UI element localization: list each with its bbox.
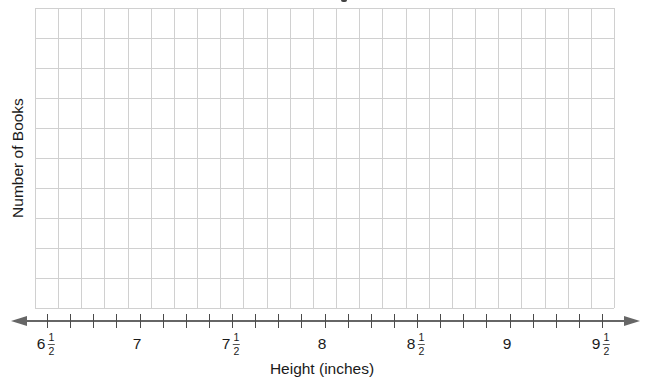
fraction-denominator: 2 [418,345,424,357]
tick-label-whole: 6 [37,336,46,352]
fraction-denominator: 2 [233,345,239,357]
tick-label-whole: 9 [592,336,601,352]
tick-label-whole: 9 [503,336,512,352]
x-tick-label: 7 [133,333,142,355]
fraction-denominator: 2 [48,345,54,357]
fraction-numerator: 1 [232,332,240,345]
tick-label-whole: 8 [407,336,416,352]
plot-grid [35,8,615,309]
x-tick-label: 912 [592,333,610,355]
tick-label-fraction: 12 [602,332,610,356]
fraction-numerator: 1 [602,332,610,345]
tick-label-fraction: 12 [232,332,240,356]
left-arrow-icon [11,316,27,326]
y-axis-label: Number of Books [9,98,27,218]
x-tick-label: 8 [318,333,327,355]
tick-label-fraction: 12 [47,332,55,356]
tick-label-whole: 7 [222,336,231,352]
x-number-line [11,314,640,328]
x-axis-label: Height (inches) [270,360,374,378]
right-arrow-icon [624,316,640,326]
x-tick-label: 812 [407,333,425,355]
tick-label-whole: 7 [133,336,142,352]
fraction-numerator: 1 [47,332,55,345]
x-tick-label: 612 [37,333,55,355]
fraction-denominator: 2 [603,345,609,357]
x-tick-label: 712 [222,333,240,355]
line-plot-canvas [0,0,645,385]
fraction-numerator: 1 [417,332,425,345]
tick-label-whole: 8 [318,336,327,352]
tick-label-fraction: 12 [417,332,425,356]
x-tick-label: 9 [503,333,512,355]
